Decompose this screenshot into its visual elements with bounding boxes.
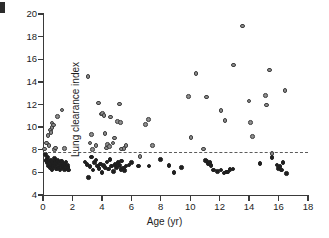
upper-limit-of-normal-line [43,152,308,153]
data-point [91,168,96,173]
data-point [108,157,113,162]
data-point [119,159,124,164]
y-tick-18 [38,36,43,37]
data-point [122,168,127,173]
data-point [88,141,93,146]
data-point [112,136,117,141]
data-point [103,131,108,136]
data-point [219,108,224,113]
data-point [186,94,191,99]
data-point [102,113,107,118]
data-point [60,108,65,113]
y-axis-title: Lung clearance index [70,45,81,175]
y-tick-label-18: 18 [3,32,37,42]
data-point [111,169,116,174]
data-point [283,88,288,93]
x-tick-label-12: 12 [207,202,233,212]
data-point [247,99,252,104]
data-point [111,141,116,146]
data-point [189,135,194,140]
data-point [147,164,152,169]
y-tick-14 [38,81,43,82]
x-axis-title: Age (yr) [0,216,329,227]
y-tick-10 [38,126,43,127]
data-point [124,143,129,148]
data-point [204,95,209,100]
data-point [143,122,148,127]
y-tick-label-6: 6 [3,167,37,177]
y-tick-label-14: 14 [3,77,37,87]
data-point [62,146,67,151]
data-point [138,154,143,159]
y-axis-line [43,13,44,196]
data-point [150,143,155,148]
data-point [94,143,99,148]
data-point [279,168,284,173]
y-tick-20 [38,13,43,14]
x-tick-label-0: 0 [30,202,56,212]
data-point [281,160,286,165]
data-point [94,158,99,163]
data-point [129,160,134,165]
y-tick-label-4: 4 [3,190,37,200]
x-tick-label-10: 10 [177,202,203,212]
data-point [86,74,91,79]
data-point [258,161,263,166]
data-point [96,101,101,106]
data-point [231,167,236,172]
x-tick-label-8: 8 [148,202,174,212]
data-point [231,63,236,68]
data-point [250,134,255,139]
data-point [146,117,151,122]
data-point [270,155,275,160]
data-point [194,71,199,76]
x-tick-label-16: 16 [266,202,292,212]
x-tick-label-4: 4 [89,202,115,212]
x-tick-label-2: 2 [59,202,85,212]
y-tick-label-8: 8 [3,145,37,155]
data-point [108,115,113,120]
y-tick-label-20: 20 [3,9,37,19]
data-point [89,132,94,137]
y-tick-16 [38,59,43,60]
y-tick-label-10: 10 [3,122,37,132]
data-point [53,146,58,151]
data-point [264,103,269,108]
data-point [86,175,91,180]
data-point [267,68,272,73]
data-point [117,102,122,107]
data-point [201,147,206,152]
data-point [49,130,54,135]
data-point [172,170,177,175]
data-point [136,164,141,169]
scatter-plot-figure: 468101214161820 024681012141618 Age (yr)… [0,0,329,238]
y-tick-label-16: 16 [3,54,37,64]
data-point [240,24,245,29]
y-tick-label-12: 12 [3,100,37,110]
x-tick-label-14: 14 [236,202,262,212]
data-point [223,118,228,123]
x-axis-line [43,195,309,196]
data-point [118,120,123,125]
data-point [263,93,268,98]
data-point [167,163,172,168]
data-point [107,144,112,149]
data-point [42,147,47,152]
data-point [179,165,184,170]
x-tick-label-18: 18 [295,202,321,212]
y-tick-6 [38,172,43,173]
y-tick-12 [38,104,43,105]
data-point [47,143,52,148]
data-point [158,157,163,162]
data-point [284,171,289,176]
data-point [100,170,105,175]
data-point [55,114,60,119]
x-tick-label-6: 6 [118,202,144,212]
data-point [51,123,56,128]
data-point [248,120,253,125]
